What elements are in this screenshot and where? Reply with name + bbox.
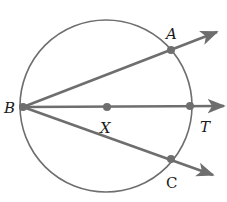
label-a: A (164, 25, 177, 43)
point-c (167, 155, 175, 163)
point-a (167, 46, 175, 54)
point-b (19, 103, 27, 111)
ray-ba (23, 32, 217, 107)
label-x: X (99, 119, 112, 137)
point-x (103, 103, 111, 111)
label-t: T (200, 118, 211, 136)
label-c: C (166, 174, 177, 192)
geometry-diagram: B A X T C (0, 0, 227, 202)
point-t (186, 102, 194, 110)
label-b: B (3, 99, 15, 117)
